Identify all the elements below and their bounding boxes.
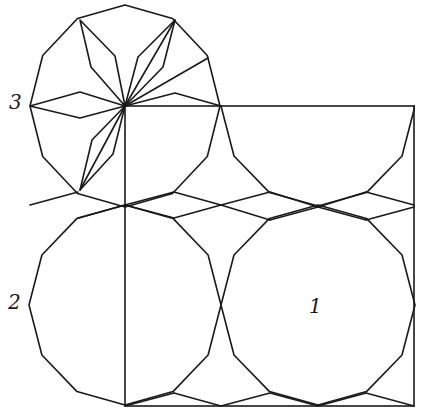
label-dodecagon-1: 1 [309,296,322,316]
dissection-rhombus-half [125,93,221,106]
tiling-segment [125,192,174,205]
tiling-segment [174,192,221,205]
tiling-segment [174,393,221,406]
dissection-rhombus [30,92,125,118]
bounding-square [125,106,414,406]
diagram-canvas [0,0,421,410]
tiling-segment [270,192,318,207]
tiling-segment [78,205,125,218]
tiling-segment [30,192,78,205]
tiling-segment [318,192,366,207]
tiling-segment [221,393,270,406]
tiling-segment [366,207,414,220]
tiling-segment [366,393,414,406]
tiling-segment [221,205,270,220]
tiling-segment [318,207,366,220]
tiling-segment [125,205,174,218]
dissection-line [80,106,125,190]
label-dodecagon-2: 2 [8,292,21,312]
tiling-segment [174,205,221,218]
tiling-segment [270,207,318,220]
tiling-segment [221,192,270,205]
dissection-rhombus [80,20,125,106]
tiling-segment [125,393,174,406]
tiling-segment [270,393,318,406]
tiling-segment [318,393,366,406]
dodecagon-tiling-diagram: 1 2 3 [0,0,421,410]
label-dodecagon-3: 3 [9,92,22,112]
tiling-segment [366,192,414,205]
dissection-line [125,20,175,106]
